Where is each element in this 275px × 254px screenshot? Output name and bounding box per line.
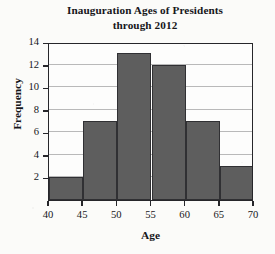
y-tick-mark [43, 110, 48, 112]
y-tick-label: 4 [17, 149, 39, 160]
x-tick-label: 70 [240, 209, 266, 220]
chart-title-line-2: through 2012 [30, 18, 260, 33]
x-tick-label: 55 [138, 209, 164, 220]
bars-layer [49, 44, 252, 200]
bar [49, 177, 83, 200]
y-tick-mark [43, 133, 48, 135]
y-axis-label: Frequency [11, 59, 23, 149]
x-tick-mark [81, 201, 83, 206]
bar [152, 65, 186, 200]
y-tick-mark [43, 88, 48, 90]
y-tick-label: 2 [17, 171, 39, 182]
bar [220, 166, 253, 200]
y-tick-mark [43, 178, 48, 180]
plot-area [48, 43, 253, 201]
x-tick-mark [150, 201, 152, 206]
histogram-chart: Inauguration Ages of Presidents through … [0, 0, 275, 254]
x-tick-mark [252, 201, 254, 206]
chart-title-line-1: Inauguration Ages of Presidents [30, 3, 260, 18]
y-tick-label: 14 [17, 36, 39, 47]
x-tick-label: 50 [103, 209, 129, 220]
x-tick-label: 65 [206, 209, 232, 220]
y-tick-mark [43, 155, 48, 157]
x-tick-mark [116, 201, 118, 206]
x-tick-label: 45 [69, 209, 95, 220]
x-tick-label: 40 [35, 209, 61, 220]
x-tick-mark [47, 201, 49, 206]
x-axis-label: Age [48, 229, 253, 241]
y-tick-mark [43, 43, 48, 45]
bar [186, 121, 220, 200]
x-tick-mark [218, 201, 220, 206]
x-tick-mark [184, 201, 186, 206]
chart-title: Inauguration Ages of Presidents through … [30, 3, 260, 33]
bar [117, 53, 151, 200]
x-tick-label: 60 [172, 209, 198, 220]
y-tick-mark [43, 65, 48, 67]
bar [83, 121, 117, 200]
